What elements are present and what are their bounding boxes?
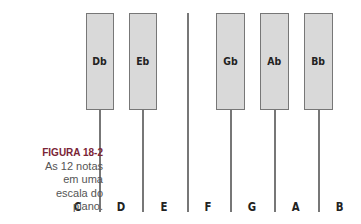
key-divider — [230, 110, 232, 212]
figure-caption: FIGURA 18-2 As 12 notas em uma escala do… — [42, 146, 103, 214]
key-label: Eb — [136, 55, 149, 68]
key-label: Gb — [223, 55, 237, 68]
note-g: G — [248, 200, 256, 214]
note-d: D — [117, 200, 125, 214]
key-divider — [187, 13, 189, 212]
note-a: A — [292, 200, 300, 214]
black-key-eb: Eb — [129, 13, 157, 110]
note-f: F — [205, 200, 212, 214]
caption-line: escala do — [42, 187, 103, 201]
key-divider — [318, 110, 320, 212]
key-label: Bb — [312, 55, 326, 68]
key-label: Db — [93, 55, 107, 68]
caption-line: piano. — [42, 200, 103, 214]
black-key-gb: Gb — [216, 13, 245, 110]
key-divider — [142, 110, 144, 212]
black-key-bb: Bb — [304, 13, 333, 110]
black-key-ab: Ab — [260, 13, 289, 110]
key-label: Ab — [268, 55, 282, 68]
note-e: E — [161, 200, 168, 214]
caption-line: As 12 notas — [42, 160, 103, 174]
note-b: B — [336, 200, 344, 214]
black-key-db: Db — [86, 13, 114, 110]
key-divider — [274, 110, 276, 212]
caption-line: em uma — [42, 173, 103, 187]
figure-label: FIGURA 18-2 — [42, 146, 103, 160]
